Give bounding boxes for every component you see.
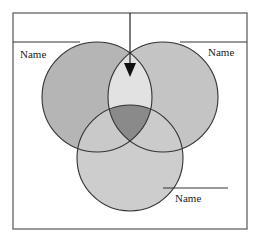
- label-bottom: Name: [175, 192, 201, 204]
- label-top-left: Name: [20, 48, 46, 60]
- venn-diagram: Name Name Name: [0, 0, 260, 241]
- label-top-right: Name: [208, 46, 234, 58]
